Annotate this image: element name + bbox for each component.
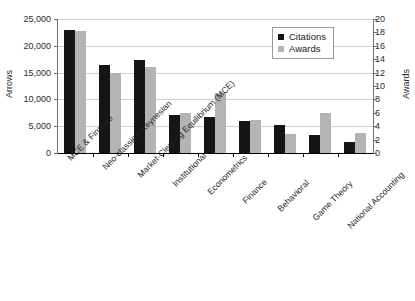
bar-citations (344, 142, 355, 153)
legend-item-citations: Citations (278, 31, 326, 43)
bar-citations (99, 65, 110, 153)
bar-chart: Arrows Awards 05,00010,00015,00020,00025… (0, 0, 415, 301)
y-tick-mark-right (373, 59, 377, 60)
bar-citations (274, 125, 285, 153)
y-tick-mark-right (373, 153, 377, 154)
bar-citations (64, 30, 75, 153)
x-axis-label: Finance (240, 177, 268, 205)
x-axis-category-labels: MCE & FinanceNeo-classical KeynesianMark… (0, 155, 415, 301)
y-tick-mark-right (373, 19, 377, 20)
bar-awards (75, 31, 86, 153)
bar-group (338, 19, 373, 153)
y-tick-mark-left (54, 153, 58, 154)
legend-swatch-awards (278, 46, 284, 52)
bar-awards (250, 120, 261, 154)
y-tick-mark-right (373, 86, 377, 87)
x-axis-label: Econometrics (205, 153, 248, 196)
x-axis-label: Behavioral (275, 179, 310, 214)
y-tick-mark-right (373, 46, 377, 47)
y-tick-mark-right (373, 73, 377, 74)
bar-citations (309, 135, 320, 153)
legend-item-awards: Awards (278, 43, 326, 55)
x-axis-label: National Accounting (345, 171, 405, 231)
bar-awards (110, 73, 121, 153)
legend-label-citations: Citations (289, 32, 326, 42)
bar-citations (239, 121, 250, 153)
x-axis-label: Game Theory (310, 179, 353, 222)
y-tick-mark-right (373, 32, 377, 33)
legend-swatch-citations (278, 34, 284, 40)
y-tick-label-left: 5,000 (28, 122, 51, 131)
y-tick-mark-right (373, 126, 377, 127)
bar-awards (320, 113, 331, 153)
bar-citations (204, 117, 215, 153)
chart-legend: Citations Awards (272, 27, 334, 59)
bar-group (233, 19, 268, 153)
y-tick-mark-right (373, 99, 377, 100)
y-tick-label-left: 25,000 (23, 15, 51, 24)
y-tick-mark-right (373, 140, 377, 141)
bar-awards (285, 134, 296, 153)
bar-awards (355, 133, 366, 153)
x-axis-label: Institutional (170, 151, 207, 188)
y-tick-mark-right (373, 113, 377, 114)
y-tick-label-left: 20,000 (23, 42, 51, 51)
y-tick-label-left: 10,000 (23, 95, 51, 104)
legend-label-awards: Awards (289, 44, 321, 54)
y-tick-label-left: 15,000 (23, 69, 51, 78)
